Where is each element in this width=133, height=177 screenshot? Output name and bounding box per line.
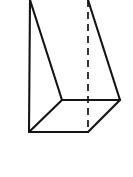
geometry-figure-canvas <box>0 0 133 177</box>
left-vertical-edge <box>29 0 30 132</box>
prism-diagram <box>0 0 133 177</box>
